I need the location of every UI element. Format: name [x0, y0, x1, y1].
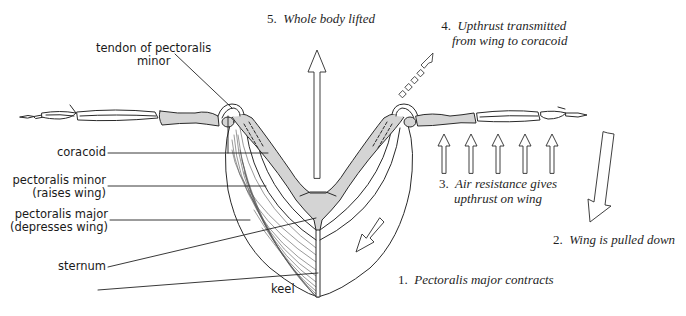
step-1-number: 1. — [398, 272, 408, 287]
step-3-text: Air resistance gives — [455, 176, 557, 191]
body-lift-arrow — [308, 50, 326, 178]
step-2-text: Wing is pulled down — [569, 232, 675, 247]
step-4-text: Upthrust transmitted — [457, 18, 566, 33]
step-5-number: 5. — [267, 11, 277, 26]
step-4-upthrust-transmitted: 4. Upthrust transmitted from wing to cor… — [440, 18, 567, 48]
step-2-number: 2. — [553, 232, 563, 247]
step-5-text: Whole body lifted — [283, 11, 375, 26]
step-3-air-resistance: 3. Air resistance gives upthrust on wing — [439, 176, 557, 206]
right-wing — [416, 107, 587, 126]
label-pec-major-line2: (depresses wing) — [10, 221, 108, 234]
left-wing — [20, 105, 219, 126]
step-4-text-line2: from wing to coracoid — [440, 33, 567, 48]
upthrust-transmitted-arrow — [399, 53, 433, 98]
label-tendon-pectoralis-minor: tendon of pectoralis minor — [96, 42, 211, 68]
step-2-wing-pulled-down: 2. Wing is pulled down — [553, 232, 675, 247]
label-tendon-line2: minor — [96, 55, 211, 68]
step-1-pectoralis-contracts: 1. Pectoralis major contracts — [398, 272, 554, 287]
step-1-text: Pectoralis major contracts — [414, 272, 553, 287]
label-coracoid: coracoid — [57, 146, 106, 159]
label-pectoralis-minor: pectoralis minor (raises wing) — [12, 174, 106, 200]
label-sternum: sternum — [58, 260, 106, 273]
step-3-text-line2: upthrust on wing — [439, 191, 557, 206]
label-pectoralis-major: pectoralis major (depresses wing) — [10, 208, 108, 234]
wing-down-arrow — [588, 132, 614, 222]
label-pec-minor-line2: (raises wing) — [12, 187, 106, 200]
step-5-body-lifted: 5. Whole body lifted — [267, 11, 375, 26]
air-resistance-arrows — [438, 134, 558, 173]
label-keel: keel — [271, 283, 295, 296]
step-3-number: 3. — [439, 176, 449, 191]
step-4-number: 4. — [441, 18, 451, 33]
